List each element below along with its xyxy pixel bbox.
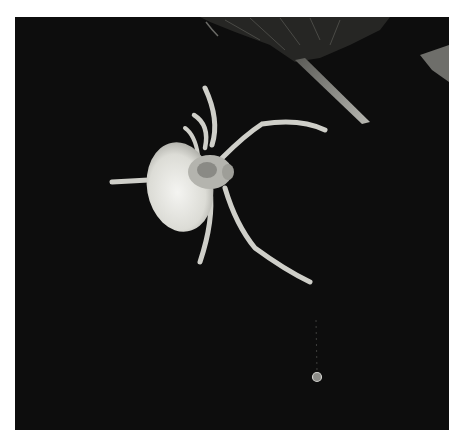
dew-drop (313, 373, 322, 382)
spider-photo (15, 17, 449, 430)
